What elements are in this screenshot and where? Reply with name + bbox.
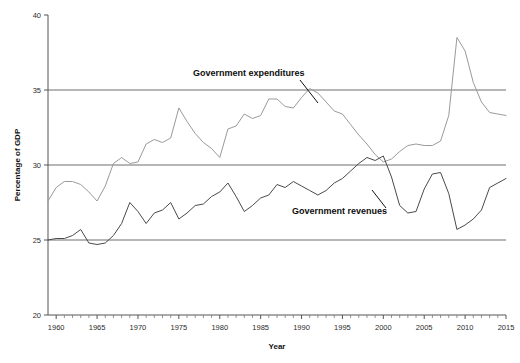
- x-axis-title: Year: [269, 342, 286, 351]
- y-tick-label-20: 20: [33, 311, 41, 320]
- x-tick-label-1975: 1975: [171, 323, 188, 332]
- y-tick-label-35: 35: [33, 86, 41, 95]
- x-tick-label-2015: 2015: [498, 323, 515, 332]
- series-revenues: [48, 156, 506, 245]
- y-axis-ticks: 2025303540: [33, 11, 48, 320]
- x-tick-label-1995: 1995: [334, 323, 351, 332]
- y-tick-label-40: 40: [33, 11, 41, 20]
- x-tick-label-2010: 2010: [457, 323, 474, 332]
- y-tick-label-25: 25: [33, 236, 41, 245]
- annotation-revenues: Government revenues: [292, 190, 387, 216]
- x-tick-label-2000: 2000: [375, 323, 392, 332]
- y-tick-label-30: 30: [33, 161, 41, 170]
- series-expenditures: [48, 38, 506, 202]
- expenditures-line: [48, 38, 506, 202]
- line-chart: 2025303540 19601965197019751980198519901…: [0, 0, 520, 363]
- x-tick-label-1960: 1960: [48, 323, 65, 332]
- x-tick-label-1980: 1980: [211, 323, 228, 332]
- gridlines: [48, 90, 506, 240]
- chart-container: 2025303540 19601965197019751980198519901…: [0, 0, 520, 363]
- revenues-line: [48, 156, 506, 245]
- x-tick-label-2005: 2005: [416, 323, 433, 332]
- y-axis-title: Percentage of GDP: [13, 128, 22, 201]
- x-tick-label-1965: 1965: [89, 323, 106, 332]
- x-axis-ticks: 1960196519701975198019851990199520002005…: [48, 315, 515, 332]
- annotation-expenditures: Government expenditures: [193, 68, 318, 103]
- x-tick-label-1985: 1985: [252, 323, 269, 332]
- x-tick-label-1990: 1990: [293, 323, 310, 332]
- expenditures-label: Government expenditures: [193, 68, 305, 78]
- revenues-label: Government revenues: [292, 206, 387, 216]
- x-tick-label-1970: 1970: [130, 323, 147, 332]
